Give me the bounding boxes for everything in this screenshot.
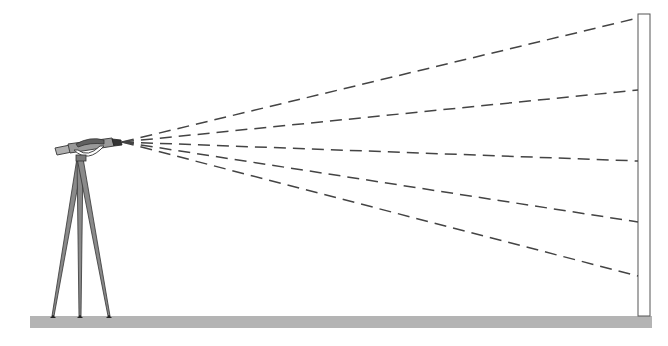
laser-beam-2 <box>122 90 638 142</box>
tripod <box>50 158 112 318</box>
device-emitter-icon <box>112 139 122 146</box>
laser-beams <box>122 18 638 276</box>
diagram-canvas <box>0 0 668 346</box>
laser-level-device <box>55 138 122 161</box>
laser-beam-1 <box>122 18 638 142</box>
laser-level-diagram <box>0 0 668 346</box>
laser-beam-5 <box>122 142 638 276</box>
wall <box>638 14 650 316</box>
laser-beam-3 <box>122 142 638 161</box>
ground-floor <box>30 316 652 328</box>
tripod-head-icon <box>76 155 86 161</box>
laser-beam-4 <box>122 142 638 222</box>
